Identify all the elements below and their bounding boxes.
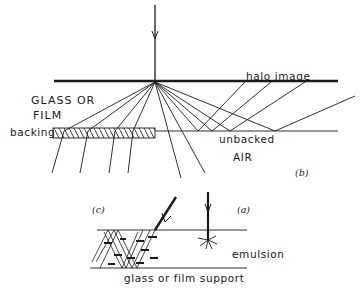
panel-c-label: (c) (92, 205, 105, 215)
backing-label: backing (10, 127, 55, 138)
oblique-incident-ray (155, 197, 176, 230)
panel-b-label: (b) (295, 168, 309, 178)
unbacked-label: unbacked (219, 134, 275, 145)
panel-b-halation (52, 5, 355, 178)
halo-rays (155, 82, 355, 131)
panel-c-and-a-emulsion (90, 192, 247, 268)
arrow-icon (162, 213, 171, 222)
panel-a-label: (a) (237, 205, 250, 215)
halo-image-label: halo image (246, 71, 310, 82)
air-label: AIR (233, 152, 252, 163)
halation-diagram (0, 0, 363, 290)
emulsion-label: emulsion (232, 249, 285, 260)
glass-or-film-label: GLASS OR (31, 95, 95, 106)
glass-or-film-label-line2: FILM (33, 110, 62, 121)
backing-strip (53, 128, 155, 138)
support-label: glass or film support (124, 273, 244, 284)
